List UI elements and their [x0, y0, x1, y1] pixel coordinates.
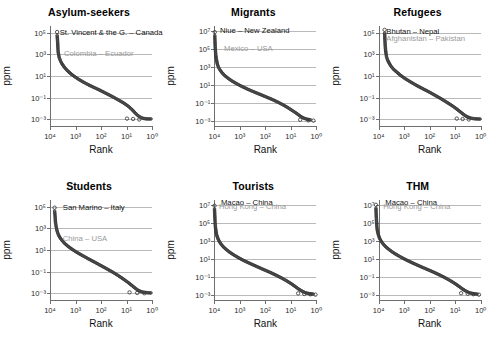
x-axis-line — [50, 300, 152, 301]
x-axis-line — [214, 126, 316, 127]
x-tick-label: 10¹ — [121, 306, 132, 315]
y-tick-label: 10⁷ — [199, 201, 210, 210]
data-series-markers — [379, 200, 481, 300]
x-tick-label: 10⁴ — [373, 306, 385, 315]
x-axis-line — [379, 300, 481, 301]
y-tick-label: 10³ — [364, 50, 375, 59]
y-tick-label: 10⁻³ — [31, 115, 46, 124]
x-axis-line — [214, 300, 316, 301]
y-tick-label: 10⁻³ — [195, 290, 210, 299]
x-tick-label: 10³ — [234, 132, 245, 141]
y-axis-label: ppm — [1, 240, 12, 259]
x-tick-label: 10⁰ — [311, 132, 322, 141]
x-tick-mark — [481, 126, 482, 130]
panel-students: StudentsppmRank10⁵10³10¹10⁻¹10⁻³10⁴10³10… — [0, 174, 164, 348]
y-tick-label: 10⁷ — [199, 27, 210, 36]
panel-title: Tourists — [164, 180, 328, 192]
panel-title: Students — [0, 180, 164, 192]
x-tick-label: 10⁰ — [475, 132, 486, 141]
data-series-markers — [50, 26, 152, 126]
annotation-2: Afghanistan – Pakistan — [386, 35, 465, 43]
y-tick-label: 10⁵ — [363, 219, 375, 228]
y-tick-label: 10⁷ — [363, 201, 374, 210]
x-tick-label: 10² — [96, 132, 107, 141]
x-axis-line — [50, 126, 152, 127]
annotation-1: San Marino – Italy — [63, 204, 125, 212]
x-tick-label: 10⁴ — [208, 132, 220, 141]
x-axis-label: Rank — [214, 144, 316, 155]
annotation-2: Mexico – USA — [224, 45, 273, 53]
panel-title: Asylum-seekers — [0, 6, 164, 18]
y-tick-label: 10¹ — [364, 254, 375, 263]
y-axis-label: ppm — [329, 240, 340, 259]
x-tick-label: 10³ — [399, 132, 410, 141]
y-tick-label: 10⁻³ — [360, 290, 375, 299]
y-tick-label: 10³ — [199, 237, 210, 246]
x-tick-mark — [152, 126, 153, 130]
y-tick-label: 10⁵ — [199, 219, 211, 228]
annotation-2: Colombia – Ecuador — [64, 50, 134, 58]
panel-thm: THMppmRank10⁷10⁵10³10¹10⁻¹10⁻³10⁴10³10²1… — [329, 174, 493, 348]
panel-title: Refugees — [329, 6, 493, 18]
x-tick-label: 10² — [424, 132, 435, 141]
x-tick-label: 10¹ — [285, 306, 296, 315]
plot-area: 10⁵10³10¹10⁻¹10⁻³10⁴10³10²10¹10⁰Bhutan –… — [379, 26, 481, 126]
x-tick-label: 10⁰ — [311, 306, 322, 315]
x-tick-label: 10⁴ — [44, 306, 56, 315]
panel-asylum-seekers: Asylum-seekersppmRank10⁵10³10¹10⁻¹10⁻³10… — [0, 0, 164, 174]
x-tick-mark — [316, 300, 317, 304]
x-tick-label: 10⁴ — [373, 132, 385, 141]
panel-refugees: RefugeesppmRank10⁵10³10¹10⁻¹10⁻³10⁴10³10… — [329, 0, 493, 174]
data-series-markers — [214, 200, 316, 300]
annotation-1: St. Vincent & the G. – Canada — [60, 29, 163, 37]
plot-area: 10⁷10⁵10³10¹10⁻¹10⁻³10⁴10³10²10¹10⁰Macao… — [379, 200, 481, 300]
y-tick-label: 10⁻¹ — [195, 98, 210, 107]
y-tick-label: 10⁻¹ — [195, 272, 210, 281]
y-tick-label: 10⁻¹ — [31, 93, 46, 102]
x-tick-mark — [152, 300, 153, 304]
y-tick-label: 10⁵ — [199, 45, 211, 54]
x-axis-label: Rank — [379, 318, 481, 329]
panel-migrants: MigrantsppmRank10⁷10⁵10³10¹10⁻¹10⁻³10⁴10… — [164, 0, 328, 174]
panel-title: THM — [329, 180, 493, 192]
multi-panel-scatter-figure: Asylum-seekersppmRank10⁵10³10¹10⁻¹10⁻³10… — [0, 0, 493, 348]
annotation-2: Hong Kong – China — [383, 203, 450, 211]
x-axis-line — [379, 126, 481, 127]
x-tick-label: 10² — [260, 132, 271, 141]
y-tick-label: 10⁻³ — [360, 115, 375, 124]
y-axis-label: ppm — [1, 66, 12, 85]
annotation-2: Hong Kong – China — [219, 203, 286, 211]
plot-area: 10⁷10⁵10³10¹10⁻¹10⁻³10⁴10³10²10¹10⁰Macao… — [214, 200, 316, 300]
x-tick-label: 10⁰ — [146, 306, 157, 315]
data-series-markers — [50, 200, 152, 300]
x-tick-label: 10² — [260, 306, 271, 315]
y-tick-label: 10⁻¹ — [360, 272, 375, 281]
y-tick-label: 10¹ — [199, 80, 210, 89]
panel-tourists: TouristsppmRank10⁷10⁵10³10¹10⁻¹10⁻³10⁴10… — [164, 174, 328, 348]
plot-area: 10⁵10³10¹10⁻¹10⁻³10⁴10³10²10¹10⁰San Mari… — [50, 200, 152, 300]
y-tick-label: 10⁵ — [34, 202, 46, 211]
x-tick-mark — [481, 300, 482, 304]
x-tick-label: 10² — [424, 306, 435, 315]
y-tick-label: 10¹ — [35, 246, 46, 255]
y-tick-label: 10³ — [35, 224, 46, 233]
x-axis-label: Rank — [379, 144, 481, 155]
y-tick-label: 10⁵ — [363, 28, 375, 37]
y-tick-label: 10⁻³ — [195, 116, 210, 125]
y-tick-label: 10³ — [364, 237, 375, 246]
x-tick-label: 10² — [96, 306, 107, 315]
y-tick-label: 10¹ — [199, 254, 210, 263]
y-axis-label: ppm — [165, 66, 176, 85]
x-axis-label: Rank — [50, 144, 152, 155]
y-tick-label: 10⁻¹ — [360, 93, 375, 102]
x-tick-label: 10¹ — [285, 132, 296, 141]
x-axis-label: Rank — [214, 318, 316, 329]
x-tick-label: 10¹ — [450, 132, 461, 141]
data-series-markers — [214, 26, 316, 126]
x-tick-label: 10³ — [399, 306, 410, 315]
x-axis-label: Rank — [50, 318, 152, 329]
y-tick-label: 10⁵ — [34, 28, 46, 37]
y-tick-label: 10³ — [199, 63, 210, 72]
y-axis-label: ppm — [329, 66, 340, 85]
x-tick-label: 10⁰ — [146, 132, 157, 141]
